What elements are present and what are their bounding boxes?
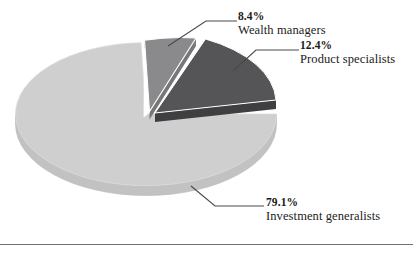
label-investment-generalists: 79.1% Investment generalists — [266, 196, 380, 223]
label-wealth-managers-percent: 8.4% — [238, 10, 326, 23]
label-investment-generalists-name: Investment generalists — [266, 209, 380, 223]
label-product-specialists-name: Product specialists — [300, 52, 395, 66]
label-investment-generalists-percent: 79.1% — [266, 196, 380, 209]
label-product-specialists-percent: 12.4% — [300, 39, 395, 52]
bottom-divider — [0, 244, 413, 245]
label-wealth-managers: 8.4% Wealth managers — [238, 10, 326, 37]
label-product-specialists: 12.4% Product specialists — [300, 39, 395, 66]
label-wealth-managers-name: Wealth managers — [238, 23, 326, 37]
pie-chart-figure: 8.4% Wealth managers 12.4% Product speci… — [0, 0, 413, 255]
